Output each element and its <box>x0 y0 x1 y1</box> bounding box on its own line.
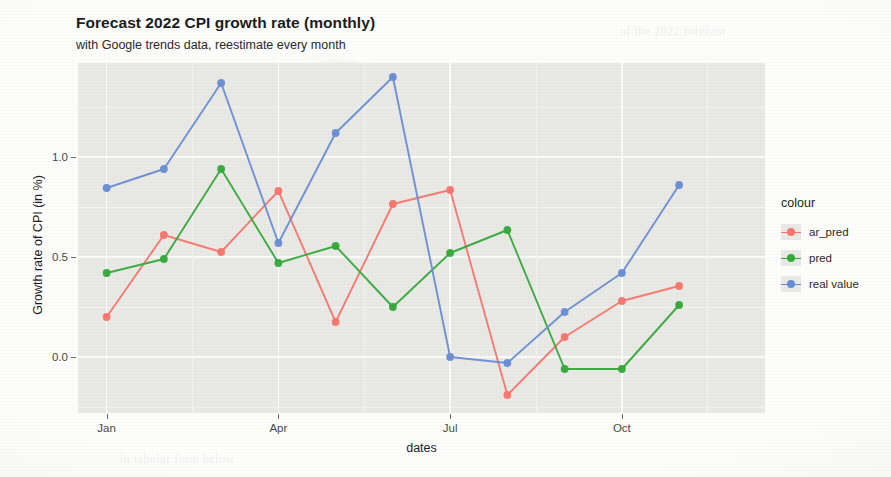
data-point <box>561 333 569 341</box>
data-point <box>160 255 168 263</box>
y-axis-tick-mark <box>71 357 76 358</box>
x-axis-tick-mark <box>107 414 108 419</box>
chart-screenshot: Plinoriali(R)(X)(A)(S) of the 2022 forec… <box>0 0 891 477</box>
y-axis-tick-label: 0.0 <box>52 351 68 363</box>
legend-item-pred[interactable]: pred <box>781 247 859 269</box>
legend-item-label: ar_pred <box>809 226 849 238</box>
data-point <box>389 303 397 311</box>
legend-key-swatch <box>781 250 801 266</box>
legend-item-label: pred <box>809 252 832 264</box>
legend-key-dot <box>787 280 795 288</box>
x-axis-tick-label: Jan <box>97 422 116 434</box>
legend-title: colour <box>781 196 859 210</box>
data-point <box>389 200 397 208</box>
legend-key-dot <box>787 254 795 262</box>
data-point <box>274 239 282 247</box>
data-point <box>675 301 683 309</box>
data-point <box>389 73 397 81</box>
legend-item-real-value[interactable]: real value <box>781 273 859 295</box>
page-bleed-text-2: of the 2022 forecast <box>620 24 726 39</box>
series-line <box>107 169 680 369</box>
data-point <box>217 165 225 173</box>
data-point <box>446 249 454 257</box>
data-point <box>217 79 225 87</box>
x-axis-tick-mark <box>622 414 623 419</box>
data-point <box>332 318 340 326</box>
legend-item-label: real value <box>809 278 859 290</box>
data-point <box>618 297 626 305</box>
data-point <box>217 248 225 256</box>
series-pred <box>103 165 683 373</box>
data-point <box>446 353 454 361</box>
data-point <box>618 365 626 373</box>
y-axis-label: Growth rate of CPI (in %) <box>31 145 45 345</box>
data-point <box>274 187 282 195</box>
data-point <box>274 259 282 267</box>
data-point <box>503 226 511 234</box>
data-point <box>561 308 569 316</box>
data-point <box>446 186 454 194</box>
x-axis-tick-mark <box>450 414 451 419</box>
y-axis-tick-label: 1.0 <box>52 151 68 163</box>
legend-key-swatch <box>781 276 801 292</box>
data-point <box>503 391 511 399</box>
y-axis-tick-label: 0.5 <box>52 251 68 263</box>
data-point <box>332 129 340 137</box>
data-point <box>103 313 111 321</box>
data-point <box>160 165 168 173</box>
legend-items: ar_predpredreal value <box>781 221 859 295</box>
data-point <box>561 365 569 373</box>
legend-key-swatch <box>781 224 801 240</box>
data-point <box>103 184 111 192</box>
x-axis-tick-label: Jul <box>443 422 458 434</box>
data-point <box>675 181 683 189</box>
plot-series-layer <box>78 63 765 413</box>
data-point <box>503 359 511 367</box>
y-axis-tick-mark <box>71 257 76 258</box>
y-axis-tick-mark <box>71 157 76 158</box>
data-point <box>332 242 340 250</box>
chart-title: Forecast 2022 CPI growth rate (monthly) <box>76 14 375 32</box>
x-axis-tick-mark <box>278 414 279 419</box>
plot-panel <box>78 63 765 413</box>
legend: colour ar_predpredreal value <box>781 196 859 299</box>
x-axis-tick-label: Apr <box>269 422 287 434</box>
data-point <box>160 231 168 239</box>
data-point <box>103 269 111 277</box>
x-axis-label: dates <box>78 441 765 455</box>
data-point <box>675 282 683 290</box>
data-point <box>618 269 626 277</box>
legend-item-ar-pred[interactable]: ar_pred <box>781 221 859 243</box>
legend-key-dot <box>787 228 795 236</box>
x-axis-tick-label: Oct <box>613 422 631 434</box>
chart-subtitle: with Google trends data, reestimate ever… <box>76 38 346 52</box>
